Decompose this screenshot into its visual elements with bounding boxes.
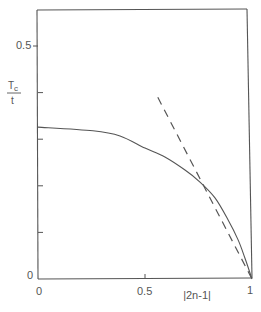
series-dashed-line (158, 97, 252, 279)
chart: 0.5 0 0 0.5 1 T c t |2n-1| (0, 0, 261, 312)
y-label-subscript: c (14, 84, 18, 93)
y-axis (37, 10, 38, 279)
plot-frame (37, 9, 252, 279)
y-tick-label-0: 0 (27, 269, 33, 281)
y-label-denominator: t (11, 95, 14, 106)
x-tick-label-0: 0 (36, 285, 42, 297)
y-axis-label: T c t (7, 80, 21, 106)
x-tick-label-0.5: 0.5 (137, 285, 152, 297)
series-solid-line (38, 127, 252, 279)
right-border (247, 9, 252, 278)
x-tick-label-1: 1 (247, 284, 253, 296)
y-tick-label-0.5: 0.5 (16, 39, 31, 51)
top-border (37, 9, 247, 10)
x-axis-label: |2n-1| (183, 289, 211, 301)
